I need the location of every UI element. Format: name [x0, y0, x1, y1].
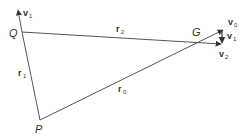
- segment-r0: [40, 30, 223, 120]
- vector-diagram: Q G P v 1 r 2 r 1 r 0 v 0 v 1 v 2: [0, 0, 247, 140]
- label-v1-q: v 1: [23, 8, 33, 19]
- svg-text:1: 1: [23, 73, 27, 79]
- svg-text:0: 0: [234, 22, 238, 28]
- svg-text:0: 0: [123, 89, 127, 95]
- svg-text:v: v: [219, 49, 224, 59]
- point-label-g: G: [192, 26, 201, 38]
- label-r0: r 0: [118, 84, 127, 95]
- label-v0: v 0: [228, 17, 238, 28]
- vector-v1-at-q: [18, 10, 22, 32]
- point-label-q: Q: [9, 27, 18, 39]
- svg-text:2: 2: [121, 29, 125, 35]
- label-v2: v 2: [219, 49, 229, 60]
- svg-text:v: v: [227, 31, 232, 41]
- svg-text:r: r: [118, 84, 122, 94]
- svg-text:v: v: [228, 17, 233, 27]
- point-label-p: P: [35, 123, 43, 135]
- label-v1-g: v 1: [227, 31, 237, 42]
- svg-text:v: v: [23, 8, 28, 18]
- svg-text:1: 1: [233, 36, 237, 42]
- svg-text:r: r: [18, 68, 22, 78]
- label-r1: r 1: [18, 68, 27, 79]
- svg-text:2: 2: [225, 54, 229, 60]
- label-r2: r 2: [116, 24, 125, 35]
- svg-text:1: 1: [29, 13, 33, 19]
- svg-text:r: r: [116, 24, 120, 34]
